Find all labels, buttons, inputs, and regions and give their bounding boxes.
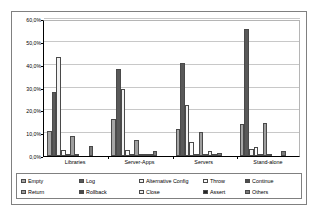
legend-item[interactable]: Close bbox=[139, 189, 160, 195]
y-tick-label: 10,0% bbox=[14, 132, 41, 137]
bar[interactable] bbox=[267, 154, 272, 156]
legend-swatch-icon bbox=[203, 179, 208, 184]
legend-swatch-icon bbox=[21, 179, 26, 184]
bar[interactable] bbox=[199, 132, 204, 156]
legend-label: Empty bbox=[28, 178, 43, 184]
legend-swatch-icon bbox=[139, 190, 144, 195]
x-axis: LibrariesServer-AppsServersStand-alone bbox=[43, 159, 300, 169]
legend-label: Continue bbox=[252, 178, 274, 184]
legend-swatch-icon bbox=[79, 179, 84, 184]
legend-item[interactable]: Empty bbox=[21, 178, 43, 184]
legend-label: Others bbox=[252, 189, 268, 195]
legend-swatch-icon bbox=[245, 179, 250, 184]
legend-item[interactable]: Alternative Config bbox=[139, 178, 189, 184]
legend-item[interactable]: Rollback bbox=[79, 189, 107, 195]
y-tick-label: 20,0% bbox=[14, 109, 41, 114]
x-tick-label: Stand-alone bbox=[253, 159, 282, 165]
bar[interactable] bbox=[244, 29, 249, 156]
bar-group bbox=[237, 20, 301, 156]
bar-group bbox=[108, 20, 172, 156]
y-tick-mark bbox=[41, 157, 43, 158]
legend-label: Close bbox=[146, 189, 160, 195]
legend-item[interactable]: Assert bbox=[203, 189, 225, 195]
chart-frame: 0,0%10,0%20,0%30,0%40,0%50,0%60,0% Libra… bbox=[11, 11, 307, 205]
bar[interactable] bbox=[89, 146, 94, 156]
x-tick-label: Servers bbox=[194, 159, 213, 165]
y-tick-label: 40,0% bbox=[14, 63, 41, 68]
legend-item[interactable]: Continue bbox=[245, 178, 274, 184]
legend-label: Alternative Config bbox=[146, 178, 189, 184]
bar[interactable] bbox=[121, 89, 126, 156]
legend-swatch-icon bbox=[79, 190, 84, 195]
bar[interactable] bbox=[70, 136, 75, 156]
y-axis: 0,0%10,0%20,0%30,0%40,0%50,0%60,0% bbox=[14, 12, 41, 167]
legend-label: Assert bbox=[210, 189, 225, 195]
bar[interactable] bbox=[56, 57, 61, 156]
y-tick-label: 0,0% bbox=[14, 155, 41, 160]
legend-label: Rollback bbox=[86, 189, 107, 195]
bar[interactable] bbox=[75, 154, 80, 156]
plot-area bbox=[43, 20, 300, 157]
bar[interactable] bbox=[217, 153, 222, 156]
y-tick-label: 30,0% bbox=[14, 86, 41, 91]
y-tick-label: 60,0% bbox=[14, 18, 41, 23]
bar-group bbox=[44, 20, 108, 156]
legend-item[interactable]: Throw bbox=[203, 178, 225, 184]
y-tick-label: 50,0% bbox=[14, 40, 41, 45]
chart-legend: EmptyLogAlternative ConfigThrowContinueR… bbox=[16, 173, 302, 199]
plot-region: 0,0%10,0%20,0%30,0%40,0%50,0%60,0% Libra… bbox=[12, 12, 308, 167]
bar[interactable] bbox=[263, 123, 268, 156]
bar-group bbox=[173, 20, 237, 156]
legend-item[interactable]: Log bbox=[79, 178, 95, 184]
legend-swatch-icon bbox=[245, 190, 250, 195]
bar[interactable] bbox=[153, 151, 158, 156]
legend-swatch-icon bbox=[139, 179, 144, 184]
gridline bbox=[44, 18, 300, 19]
bar[interactable] bbox=[281, 151, 286, 156]
legend-label: Return bbox=[28, 189, 44, 195]
bars-layer bbox=[44, 20, 300, 156]
legend-item[interactable]: Others bbox=[245, 189, 268, 195]
legend-label: Throw bbox=[210, 178, 225, 184]
legend-item[interactable]: Return bbox=[21, 189, 44, 195]
legend-swatch-icon bbox=[203, 190, 208, 195]
legend-label: Log bbox=[86, 178, 95, 184]
legend-swatch-icon bbox=[21, 190, 26, 195]
x-tick-label: Libraries bbox=[65, 159, 86, 165]
x-tick-label: Server-Apps bbox=[124, 159, 154, 165]
